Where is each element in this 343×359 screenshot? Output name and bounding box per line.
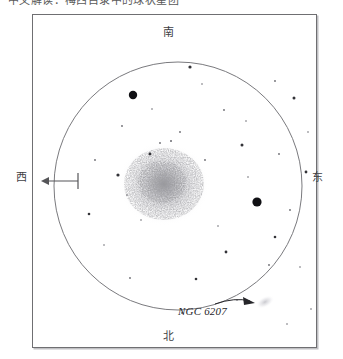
- faint-star: [286, 323, 288, 325]
- medium-star: [88, 213, 91, 216]
- faint-star: [278, 153, 280, 155]
- faint-star: [129, 277, 131, 279]
- medium-star: [225, 251, 228, 254]
- medium-star: [188, 65, 191, 68]
- faint-star: [268, 264, 270, 266]
- medium-star: [149, 153, 152, 156]
- faint-star: [223, 109, 225, 111]
- faint-star: [204, 159, 206, 161]
- medium-star: [241, 144, 244, 147]
- cluster-core-stipple: [138, 161, 186, 203]
- faint-star: [126, 194, 128, 196]
- medium-star: [195, 278, 198, 281]
- ngc6207-label: NGC 6207: [178, 305, 227, 317]
- medium-star: [116, 173, 119, 176]
- caption-strip: 中文解读：梅西目录中的球状星团: [0, 0, 343, 12]
- faint-star: [217, 225, 219, 227]
- drift-direction-arrow-icon: [38, 172, 82, 190]
- faint-star: [121, 125, 123, 127]
- faint-star: [247, 176, 249, 178]
- faint-star: [179, 131, 181, 133]
- faint-star: [310, 308, 312, 310]
- medium-star: [293, 97, 296, 100]
- caption-text: 中文解读：梅西目录中的球状星团: [8, 0, 179, 7]
- bright-star: [252, 197, 261, 206]
- cardinal-label-east: 东: [312, 172, 323, 183]
- faint-star: [94, 159, 96, 161]
- faint-star: [140, 219, 142, 221]
- medium-star: [305, 171, 308, 174]
- faint-star: [274, 80, 276, 82]
- faint-star: [307, 131, 309, 133]
- medium-star: [274, 236, 277, 239]
- faint-star: [159, 142, 161, 144]
- ngc6207-leader-arrow: [215, 297, 255, 305]
- bright-star: [129, 91, 137, 99]
- faint-star: [151, 108, 153, 110]
- cardinal-label-north: 北: [163, 331, 174, 342]
- cardinal-label-south: 南: [163, 27, 174, 38]
- ngc6207-smudge: [254, 292, 277, 311]
- faint-star: [201, 83, 203, 85]
- faint-star: [103, 244, 105, 246]
- cardinal-label-west: 西: [16, 172, 27, 183]
- faint-star: [289, 209, 291, 211]
- faint-star: [170, 140, 172, 142]
- faint-star: [245, 120, 247, 122]
- faint-star: [299, 266, 301, 268]
